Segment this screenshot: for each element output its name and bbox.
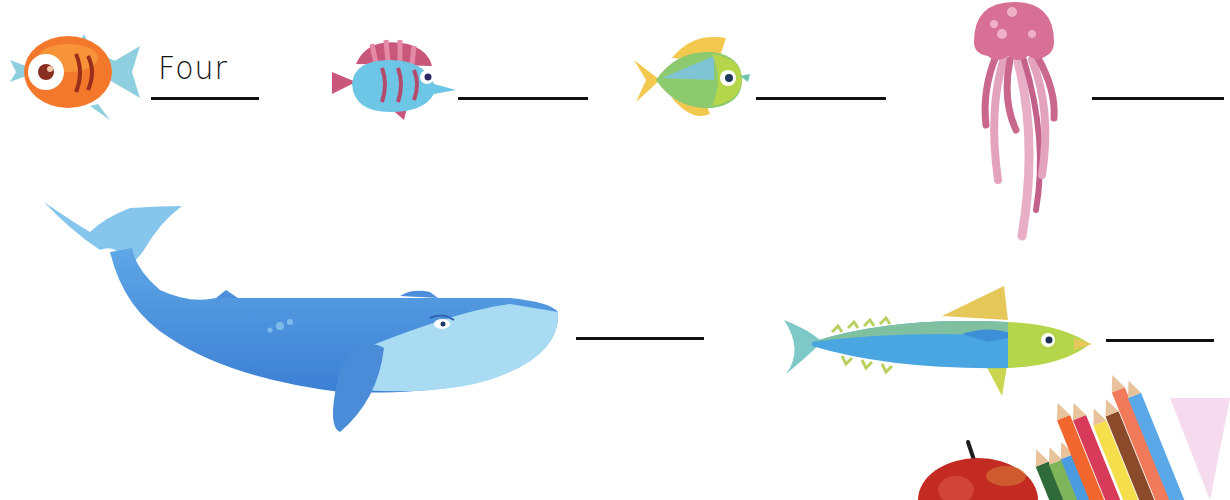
answer-blank-4[interactable] [1092,97,1224,100]
answer-blank-2[interactable] [458,97,588,100]
yellow-green-fish-illustration [632,32,754,124]
whale-illustration [40,200,570,436]
answer-blank-1[interactable] [151,97,259,100]
answer-blank-3[interactable] [756,97,886,100]
answer-blank-6[interactable] [1106,339,1214,342]
pink-striped-fish-illustration [328,30,458,120]
jellyfish-illustration [968,0,1058,242]
apple-illustration [916,440,1056,500]
colored-pencils-illustration [1040,360,1230,500]
orange-fish-illustration [6,22,142,114]
answer-text-1: Four [158,49,228,86]
answer-blank-5[interactable] [576,337,704,340]
